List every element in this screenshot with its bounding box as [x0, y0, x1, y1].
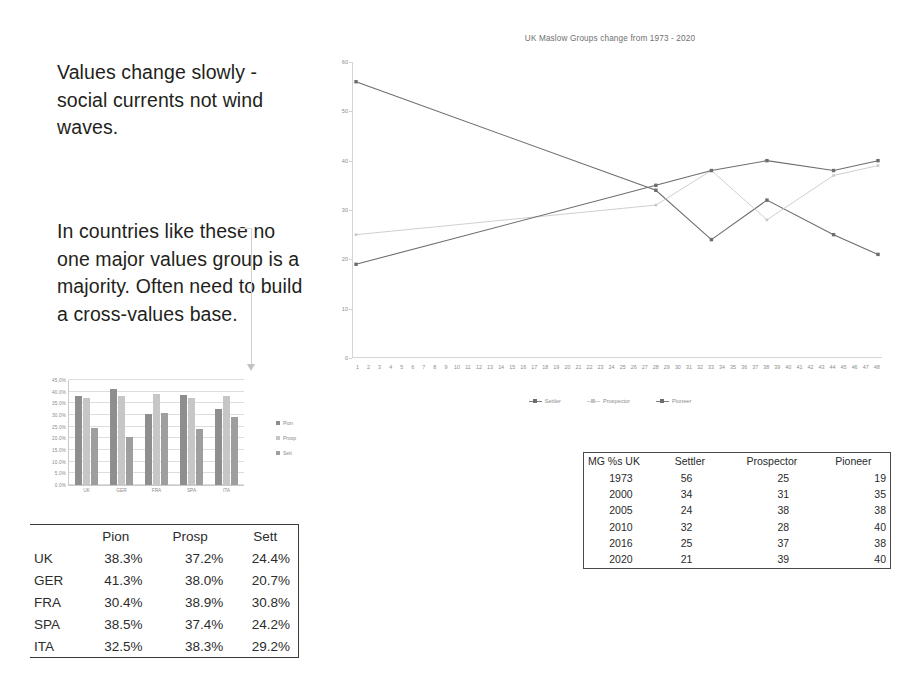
cell-sett: 24.4% — [231, 547, 298, 569]
line-marker-pioneer-1973 — [354, 263, 357, 266]
line-chart-series-svg — [352, 62, 882, 358]
line-series-settler — [356, 82, 878, 255]
col-sett: Sett — [231, 525, 298, 547]
cell-pion: 38.3% — [80, 547, 150, 569]
cell-settler: 25 — [661, 535, 723, 551]
line-chart-x-tick-label: 30 — [672, 364, 683, 370]
line-chart-x-tick-label: 33 — [706, 364, 717, 370]
cell-pion: 30.4% — [80, 591, 150, 613]
cell-settler: 21 — [661, 551, 723, 567]
table-row: UK38.3%37.2%24.4% — [30, 547, 298, 569]
line-chart-x-tick-label: 4 — [385, 364, 396, 370]
line-marker-prospector-1973 — [355, 233, 358, 236]
table-row: 2010322840 — [584, 519, 890, 535]
cell-pioneer: 40 — [823, 551, 890, 567]
line-chart-x-tick-label: 39 — [772, 364, 783, 370]
table-header-row: Pion Prosp Sett — [30, 525, 298, 547]
bar-prosp-ger — [118, 396, 125, 485]
line-chart-x-tick-label: 8 — [429, 364, 440, 370]
line-marker-settler-2010 — [765, 198, 768, 201]
line-chart-x-tick-label: 15 — [507, 364, 518, 370]
cell-year: 1973 — [584, 469, 661, 485]
legend-line-marker-icon — [529, 401, 542, 402]
bar-prosp-uk — [83, 398, 90, 485]
line-chart-x-tick-label: 27 — [639, 364, 650, 370]
line-chart-y-tick-label: 60 — [342, 59, 348, 65]
bar-chart-y-tick-label: 25.0% — [52, 424, 66, 429]
col-prosp: Prosp — [150, 525, 231, 547]
bar-chart-y-tick-label: 10.0% — [52, 459, 66, 464]
bar-legend-item-sett: Sett — [276, 450, 296, 456]
table-row: GER41.3%38.0%20.7% — [30, 569, 298, 591]
line-chart-x-tick-label: 42 — [805, 364, 816, 370]
line-chart-x-tick-label: 16 — [518, 364, 529, 370]
bar-chart-y-tick-label: 35.0% — [52, 401, 66, 406]
line-chart-x-tick-label: 48 — [871, 364, 882, 370]
cell-prosp: 37.4% — [150, 613, 231, 635]
line-legend-item-prospector: Prospector — [587, 398, 630, 404]
cell-sett: 29.2% — [231, 635, 298, 657]
line-chart-x-tick-label: 46 — [849, 364, 860, 370]
bar-chart-plot-area: 0.0%5.0%10.0%15.0%20.0%25.0%30.0%35.0%40… — [68, 380, 244, 486]
bar-group-fra: FRA — [139, 380, 174, 485]
cell-year: 2000 — [584, 486, 661, 502]
percentage-table: Pion Prosp Sett UK38.3%37.2%24.4%GER41.3… — [30, 524, 299, 658]
cell-prosp: 38.0% — [150, 569, 231, 591]
line-chart-x-tick-label: 36 — [739, 364, 750, 370]
legend-line-marker-icon — [656, 401, 669, 402]
bar-chart-x-tick-label: FRA — [152, 488, 162, 493]
line-chart-x-tick-labels: 1234567891011121314151617181920212223242… — [352, 364, 882, 370]
line-chart-x-tick-label: 9 — [440, 364, 451, 370]
bar-chart-x-tick-label: ITA — [223, 488, 230, 493]
bar-chart-legend: PionProspSett — [276, 420, 296, 456]
cell-pioneer: 19 — [823, 469, 890, 485]
line-legend-label: Pioneer — [672, 398, 691, 404]
table-row: 2000343135 — [584, 486, 890, 502]
line-chart-x-tick-label: 12 — [474, 364, 485, 370]
line-marker-settler-2000 — [654, 189, 657, 192]
line-chart-x-tick-label: 47 — [860, 364, 871, 370]
bar-pion-ita — [215, 409, 222, 485]
table-header-row: MG %s UK Settler Prospector Pioneer — [584, 453, 890, 469]
bar-legend-item-prosp: Prosp — [276, 435, 296, 441]
bar-prosp-fra — [153, 394, 160, 485]
line-chart-x-tick-label: 7 — [418, 364, 429, 370]
bar-sett-uk — [91, 428, 98, 485]
bar-group-spa: SPA — [174, 380, 209, 485]
bar-sett-ita — [231, 417, 238, 485]
line-marker-prospector-2020 — [877, 164, 880, 167]
line-chart-x-tick-label: 10 — [451, 364, 462, 370]
cell-year: 2005 — [584, 502, 661, 518]
cell-sett: 20.7% — [231, 569, 298, 591]
line-chart-x-tick-label: 17 — [529, 364, 540, 370]
legend-line-marker-icon — [587, 401, 600, 402]
callout-text-values-change: Values change slowly - social currents n… — [57, 59, 297, 142]
line-chart-x-tick-label: 23 — [595, 364, 606, 370]
line-chart-x-tick-label: 31 — [683, 364, 694, 370]
bar-sett-spa — [196, 429, 203, 485]
cell-year: 2010 — [584, 519, 661, 535]
cell-pioneer: 40 — [823, 519, 890, 535]
line-chart-x-tick-label: 35 — [728, 364, 739, 370]
line-chart-y-tick-label: 10 — [342, 306, 348, 312]
cell-sett: 24.2% — [231, 613, 298, 635]
cell-country: FRA — [30, 591, 80, 613]
cell-prospector: 28 — [722, 519, 823, 535]
line-chart-y-tickmark — [349, 210, 352, 211]
bar-legend-label: Prosp — [283, 435, 296, 441]
bar-prosp-ita — [223, 396, 230, 485]
line-chart-x-tick-label: 18 — [540, 364, 551, 370]
line-chart-x-tick-label: 24 — [606, 364, 617, 370]
bar-chart-y-tick-label: 30.0% — [52, 413, 66, 418]
line-chart-x-tick-label: 2 — [363, 364, 374, 370]
cell-prosp: 38.3% — [150, 635, 231, 657]
table-row: FRA30.4%38.9%30.8% — [30, 591, 298, 613]
bar-chart-y-tick-label: 20.0% — [52, 436, 66, 441]
line-legend-label: Settler — [545, 398, 561, 404]
line-marker-settler-2016 — [832, 233, 835, 236]
line-chart-x-tick-label: 28 — [650, 364, 661, 370]
bar-legend-item-pion: Pion — [276, 420, 296, 426]
line-marker-pioneer-2020 — [876, 159, 879, 162]
line-chart-x-tick-label: 45 — [838, 364, 849, 370]
col-mg-uk: MG %s UK — [584, 453, 661, 469]
